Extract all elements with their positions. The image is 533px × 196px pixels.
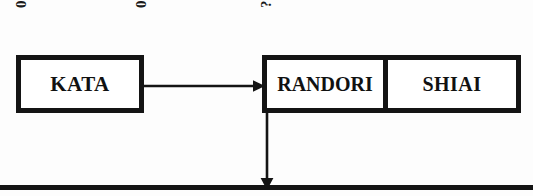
kata-box[interactable]: KATA	[16, 55, 144, 113]
kata-box-label: KATA	[50, 74, 110, 95]
shiai-box-label: SHIAI	[422, 74, 481, 94]
kata-to-randori-arrow	[143, 76, 265, 96]
shiai-box[interactable]: SHIAI	[388, 60, 516, 108]
flow-diagram: 0% 0% ? % 100% 100% KATA RANDORI SHIAI	[0, 0, 533, 196]
baseline-rule	[0, 185, 533, 190]
randori-box[interactable]: RANDORI	[267, 60, 388, 108]
practice-box-group: RANDORI SHIAI	[262, 55, 521, 113]
randori-box-label: RANDORI	[277, 74, 373, 94]
randori-to-baseline-arrow	[256, 112, 278, 190]
